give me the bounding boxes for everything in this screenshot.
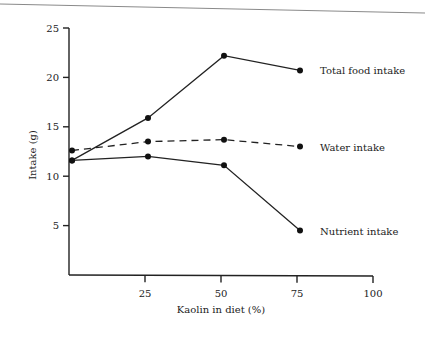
nutrient-intake-point [221, 162, 227, 168]
y-axis-label: Intake (g) [27, 130, 38, 180]
total-food-intake-label: Total food intake [320, 65, 405, 76]
top-rule [0, 4, 425, 13]
y-tick-label: 25 [46, 23, 59, 34]
x-tick-label: 100 [363, 288, 382, 299]
nutrient-intake-point [145, 153, 151, 159]
y-tick-label: 5 [53, 220, 59, 231]
labels-group: Kaolin in diet (%)Intake (g)Total food i… [27, 65, 405, 315]
x-axis-label: Kaolin in diet (%) [177, 304, 265, 315]
water-intake-point [297, 144, 303, 150]
y-tick-label: 20 [46, 72, 59, 83]
total-food-intake-line [72, 56, 300, 161]
water-intake-point [145, 139, 151, 145]
water-intake-label: Water intake [320, 142, 385, 153]
total-food-intake-point [297, 67, 303, 73]
nutrient-intake-point [69, 157, 75, 163]
total-food-intake-point [221, 53, 227, 59]
water-intake-point [69, 148, 75, 154]
nutrient-intake-line [72, 156, 300, 230]
nutrient-intake-point [297, 228, 303, 234]
x-tick-label: 75 [291, 288, 304, 299]
total-food-intake-point [145, 115, 151, 121]
x-tick-label: 25 [139, 288, 152, 299]
water-intake-point [221, 137, 227, 143]
series-group [69, 53, 303, 234]
nutrient-intake-label: Nutrient intake [320, 226, 398, 237]
x-tick-label: 50 [215, 288, 228, 299]
y-tick-label: 10 [46, 171, 59, 182]
line-chart: 510152025255075100 Kaolin in diet (%)Int… [0, 0, 425, 344]
y-tick-label: 15 [46, 121, 59, 132]
